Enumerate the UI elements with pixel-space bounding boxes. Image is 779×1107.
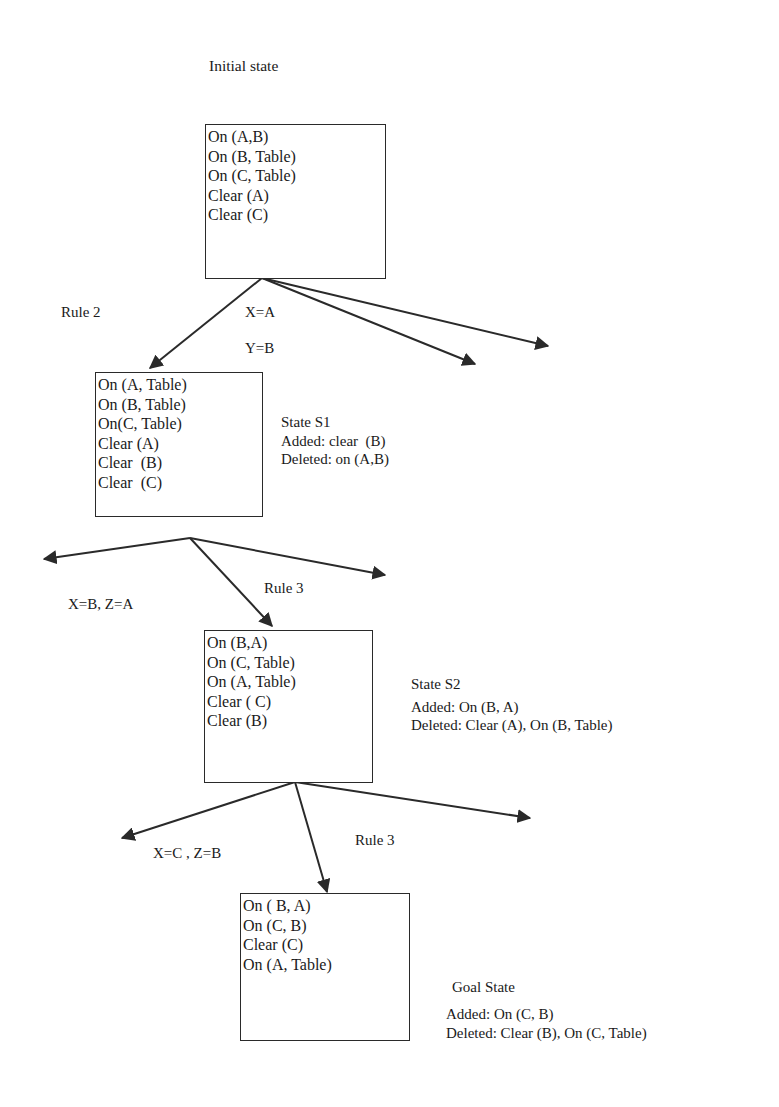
fact: On (A,B) [208, 127, 385, 147]
state-box-s1: On (A, Table) On (B, Table) On(C, Table)… [95, 372, 263, 517]
deleted-facts: Deleted: Clear (A), On (B, Table) [411, 716, 613, 735]
state-name: Goal State [452, 978, 515, 996]
fact: Clear ( C) [207, 692, 372, 712]
state-box-goal: On ( B, A) On (C, B) Clear (C) On (A, Ta… [240, 893, 410, 1041]
state-box-s2: On (B,A) On (C, Table) On (A, Table) Cle… [204, 630, 373, 783]
fact: Clear (C) [208, 205, 385, 225]
state-box-initial: On (A,B) On (B, Table) On (C, Table) Cle… [205, 124, 386, 279]
fact: On (A, Table) [207, 672, 372, 692]
state-name: State S1 [281, 413, 389, 432]
binding-label: X=B, Z=A [68, 595, 133, 613]
rule-label: Rule 2 [61, 303, 101, 321]
fact: On (C, Table) [207, 653, 372, 673]
added-facts: Added: On (B, A) [411, 698, 613, 717]
fact: On (A, Table) [243, 955, 409, 975]
added-facts: Added: clear (B) [281, 432, 389, 451]
added-facts: Added: On (C, B) [446, 1005, 647, 1024]
arrow-s2-alt-right [295, 782, 530, 818]
binding-label: X=A [245, 303, 275, 321]
arrow-s2-alt-left [122, 782, 295, 838]
arrow-s1-alt-left [44, 538, 190, 559]
fact: Clear (B) [207, 711, 372, 731]
fact: On(C, Table) [98, 414, 262, 434]
fact: On (A, Table) [98, 375, 262, 395]
rule-label: Rule 3 [355, 831, 395, 849]
fact: On (B, Table) [98, 395, 262, 415]
fact: Clear (A) [208, 186, 385, 206]
state-info-goal: Added: On (C, B) Deleted: Clear (B), On … [446, 1005, 647, 1042]
fact: On ( B, A) [243, 896, 409, 916]
diagram-title: Initial state [209, 57, 278, 75]
fact: Clear (C) [98, 473, 262, 493]
fact: On (B, Table) [208, 147, 385, 167]
state-info-s1: State S1 Added: clear (B) Deleted: on (A… [281, 413, 389, 469]
state-info-s2: State S2 Added: On (B, A) Deleted: Clear… [411, 675, 613, 735]
binding-label: Y=B [245, 339, 274, 357]
rule-label: Rule 3 [264, 579, 304, 597]
binding-label: X=C , Z=B [153, 844, 221, 862]
fact: On (C, B) [243, 916, 409, 936]
deleted-facts: Deleted: Clear (B), On (C, Table) [446, 1024, 647, 1043]
state-name: State S2 [411, 675, 613, 694]
deleted-facts: Deleted: on (A,B) [281, 450, 389, 469]
fact: On (B,A) [207, 633, 372, 653]
fact: Clear (B) [98, 453, 262, 473]
fact: Clear (C) [243, 935, 409, 955]
fact: Clear (A) [98, 434, 262, 454]
fact: On (C, Table) [208, 166, 385, 186]
arrow-rule3-to-goal [295, 782, 327, 892]
